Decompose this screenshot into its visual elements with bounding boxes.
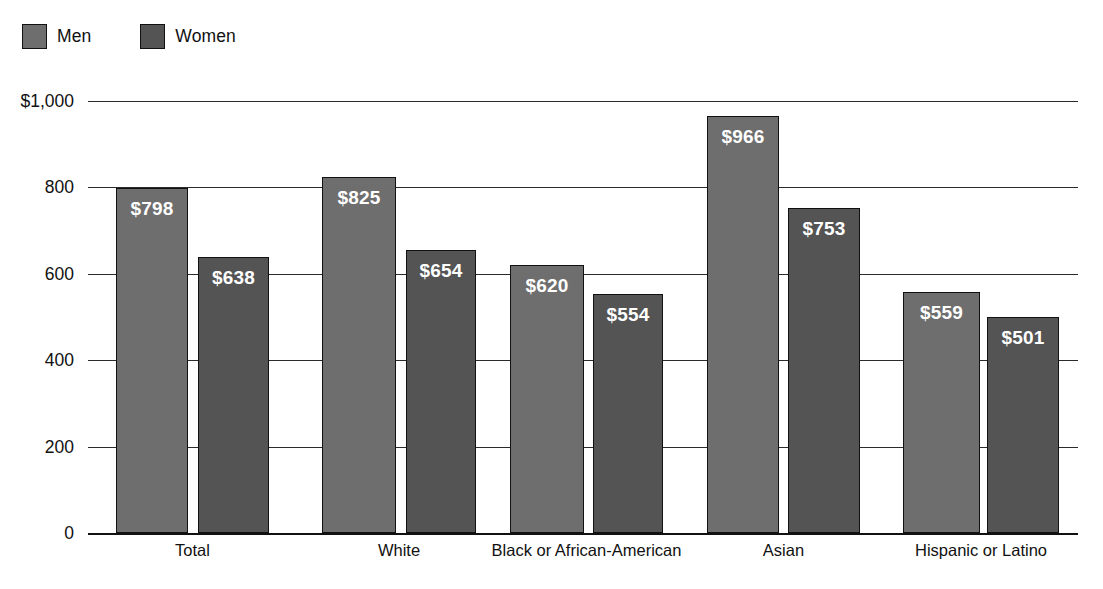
bar-value-label: $825 (323, 187, 395, 209)
bar-value-label: $554 (594, 304, 662, 326)
bar-men-3[interactable]: $966 (707, 116, 779, 533)
bar-value-label: $559 (904, 302, 979, 324)
gridline (88, 187, 1078, 188)
x-axis-category-label: Hispanic or Latino (915, 541, 1047, 560)
bar-women-1[interactable]: $654 (406, 250, 476, 533)
y-axis-tick-label: 800 (0, 177, 74, 198)
bar-value-label: $798 (117, 198, 187, 220)
bar-men-0[interactable]: $798 (116, 188, 188, 533)
bar-women-0[interactable]: $638 (198, 257, 269, 533)
x-axis-category-label: Total (175, 541, 210, 560)
plot-area: $1,0008006004002000$798$638$825$654$620$… (0, 0, 1103, 589)
bar-value-label: $753 (789, 218, 859, 240)
bar-value-label: $501 (988, 327, 1058, 349)
x-axis-category-label: Asian (763, 541, 804, 560)
gridline (88, 101, 1078, 102)
bar-value-label: $966 (708, 126, 778, 148)
y-axis-tick-label: 200 (0, 436, 74, 457)
bar-women-4[interactable]: $501 (987, 317, 1059, 533)
bar-value-label: $654 (407, 260, 475, 282)
y-axis-tick-label: 400 (0, 350, 74, 371)
y-axis-tick-label: 0 (0, 523, 74, 544)
bar-men-4[interactable]: $559 (903, 292, 980, 533)
y-axis-tick-label: 600 (0, 263, 74, 284)
y-axis-tick-label: $1,000 (0, 91, 74, 112)
chart-container: Men Women $1,0008006004002000$798$638$82… (0, 0, 1103, 589)
x-axis-category-label: Black or African-American (492, 541, 682, 560)
x-axis-category-label: White (378, 541, 420, 560)
bar-value-label: $638 (199, 267, 268, 289)
bar-men-1[interactable]: $825 (322, 177, 396, 533)
bar-women-3[interactable]: $753 (788, 208, 860, 533)
bar-value-label: $620 (511, 275, 583, 297)
bar-men-2[interactable]: $620 (510, 265, 584, 533)
bar-women-2[interactable]: $554 (593, 294, 663, 533)
axis-baseline (88, 533, 1078, 535)
